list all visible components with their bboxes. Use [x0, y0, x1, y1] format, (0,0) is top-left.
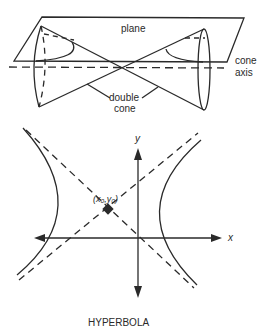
figure-title: HYPERBOLA: [88, 317, 149, 328]
double-cone-label-line2: cone: [114, 103, 136, 114]
right-cone-base: [198, 29, 210, 110]
left-section-curve: [36, 42, 74, 61]
hyperbola-right-branch: [159, 140, 201, 285]
double-cone-label-line1: double: [109, 92, 139, 103]
plane-label: plane: [121, 23, 146, 34]
right-section-curve: [166, 49, 203, 62]
y-axis-arrow-down: [134, 286, 142, 298]
y-axis-arrow-up: [134, 148, 142, 160]
x-axis-arrow-left: [34, 234, 45, 242]
center-point: [102, 203, 113, 214]
axis-arrowheads: [34, 148, 222, 298]
leader-line-right: [142, 87, 158, 98]
center-label: (x₀,y₀): [93, 194, 118, 204]
x-axis-label: x: [227, 232, 234, 243]
conic-diagram: plane cone axis double cone y x (x₀,y₀) …: [0, 0, 262, 331]
y-axis-label: y: [134, 133, 141, 144]
cone-axis-line: [9, 67, 224, 68]
x-axis-arrow-right: [211, 234, 222, 242]
cone-axis-label-line2: axis: [235, 67, 253, 78]
cone-axis-label-line1: cone: [235, 55, 257, 66]
leader-line-left: [87, 84, 110, 98]
